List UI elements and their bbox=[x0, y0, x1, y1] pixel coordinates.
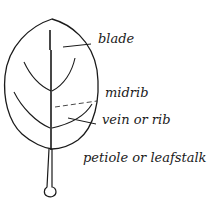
petiole-label: petiole or leafstalk bbox=[83, 151, 206, 164]
blade-label: blade bbox=[98, 32, 134, 45]
vein-upper-left bbox=[24, 62, 51, 91]
petiole-shape bbox=[44, 149, 56, 197]
leaf-diagram: blade midrib vein or rib petiole or leaf… bbox=[0, 0, 221, 205]
vein-lower-right bbox=[52, 104, 92, 128]
vein-label: vein or rib bbox=[102, 113, 171, 126]
vein-upper-right bbox=[52, 58, 75, 91]
vein-lower-left bbox=[14, 92, 50, 128]
blade-leader-line bbox=[63, 44, 91, 47]
midrib-label: midrib bbox=[105, 86, 149, 99]
